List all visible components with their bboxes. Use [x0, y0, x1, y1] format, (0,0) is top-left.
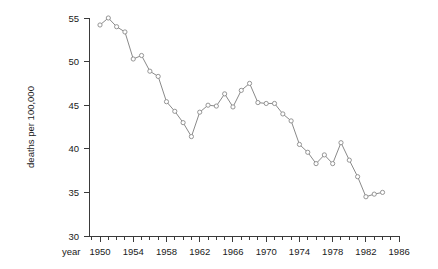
- data-point: [115, 25, 119, 29]
- y-axis-label: deaths per 100,000: [25, 86, 36, 168]
- data-point: [264, 101, 268, 105]
- data-point: [247, 81, 251, 85]
- data-point: [372, 192, 376, 196]
- data-point: [189, 134, 193, 138]
- line-chart: 3035404550551950195419581962196619701974…: [0, 0, 438, 269]
- data-point: [198, 110, 202, 114]
- x-axis-tick-label: 1974: [289, 246, 310, 257]
- data-point: [123, 30, 127, 34]
- data-point: [306, 150, 310, 154]
- data-point: [98, 23, 102, 27]
- data-point: [272, 101, 276, 105]
- x-axis-tick-label: 1954: [123, 246, 144, 257]
- data-point: [380, 190, 384, 194]
- x-axis-tick-label: 1986: [389, 246, 410, 257]
- data-point: [206, 103, 210, 107]
- x-axis-tick-label: 1970: [256, 246, 277, 257]
- data-point: [173, 109, 177, 113]
- data-point: [281, 112, 285, 116]
- chart-page: 3035404550551950195419581962196619701974…: [0, 0, 438, 269]
- data-point: [297, 142, 301, 146]
- y-axis-tick-label: 55: [68, 13, 79, 24]
- data-point: [164, 100, 168, 104]
- data-point: [223, 92, 227, 96]
- y-axis-tick-label: 40: [68, 143, 79, 154]
- data-point: [314, 162, 318, 166]
- data-point: [231, 105, 235, 109]
- data-point: [331, 162, 335, 166]
- data-point: [356, 175, 360, 179]
- data-point: [156, 74, 160, 78]
- y-axis-tick-label: 50: [68, 56, 79, 67]
- data-point: [289, 119, 293, 123]
- x-axis-tick-label: 1958: [156, 246, 177, 257]
- x-axis-tick-label: 1982: [355, 246, 376, 257]
- data-point: [148, 69, 152, 73]
- x-axis-tick-label: 1966: [222, 246, 243, 257]
- data-point: [139, 53, 143, 57]
- data-point: [339, 141, 343, 145]
- x-axis-tick-label: 1962: [189, 246, 210, 257]
- data-point: [347, 158, 351, 162]
- x-axis-label: year: [62, 246, 80, 257]
- data-point: [181, 121, 185, 125]
- data-point: [364, 195, 368, 199]
- data-point: [131, 57, 135, 61]
- data-point: [214, 104, 218, 108]
- data-point: [322, 153, 326, 157]
- y-axis-tick-label: 45: [68, 100, 79, 111]
- data-point: [256, 100, 260, 104]
- data-series-line: [100, 18, 383, 197]
- x-axis-tick-label: 1978: [322, 246, 343, 257]
- data-point: [106, 16, 110, 20]
- data-point: [239, 88, 243, 92]
- x-axis-tick-label: 1950: [89, 246, 110, 257]
- y-axis-tick-label: 30: [68, 231, 79, 242]
- data-point-markers: [98, 16, 385, 199]
- y-axis-tick-label: 35: [68, 187, 79, 198]
